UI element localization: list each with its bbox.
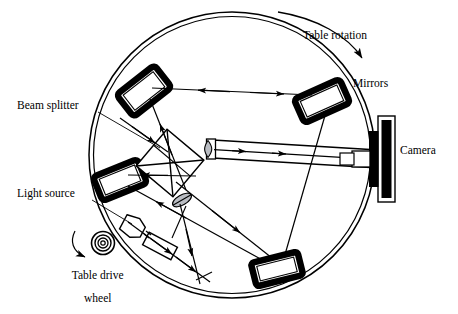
mirror-top-right xyxy=(294,79,350,123)
label-table-drive-wheel-line1: Table drive xyxy=(72,269,124,281)
lamp-bulb xyxy=(118,213,147,242)
label-table-drive-wheel: Table drive wheel xyxy=(50,258,134,314)
mirror-bottom xyxy=(251,252,303,287)
label-mirrors: Mirrors xyxy=(353,78,388,90)
table-drive-wheel xyxy=(92,232,115,255)
mirror-top-left xyxy=(116,65,171,117)
label-table-rotation: Table rotation xyxy=(303,30,367,42)
table-drive-wheel-leader xyxy=(72,231,85,257)
label-beam-splitter: Beam splitter xyxy=(17,100,79,112)
label-camera: Camera xyxy=(400,145,436,157)
diagram-canvas: Table rotation Mirrors Camera Beam split… xyxy=(0,0,458,314)
label-light-source: Light source xyxy=(17,188,75,200)
label-table-drive-wheel-line2: wheel xyxy=(84,292,111,304)
beam-splitter xyxy=(136,129,204,197)
